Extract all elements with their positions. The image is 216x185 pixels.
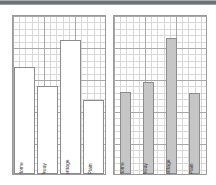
bar-plain[interactable]: Plain bbox=[189, 93, 201, 174]
bar-label-heritage: Heritage bbox=[65, 160, 70, 175]
bar-plain[interactable]: Plain bbox=[83, 100, 104, 174]
charts-area: HomeAwayHeritagePlain HomeAwayHeritagePl… bbox=[0, 4, 216, 185]
bar-label-heritage: Heritage bbox=[166, 160, 171, 175]
bar-away[interactable]: Away bbox=[143, 82, 155, 174]
bar-chart-right: HomeAwayHeritagePlain bbox=[113, 15, 207, 175]
top-band-highlight bbox=[0, 0, 216, 1]
bar-heritage[interactable]: Heritage bbox=[166, 38, 178, 174]
bar-label-plain: Plain bbox=[88, 163, 93, 174]
bars-container-left: HomeAwayHeritagePlain bbox=[13, 16, 105, 174]
plot-area-left: HomeAwayHeritagePlain bbox=[12, 15, 106, 175]
bars-container-right: HomeAwayHeritagePlain bbox=[114, 16, 206, 174]
bar-label-away: Away bbox=[143, 163, 148, 175]
bar-label-plain: Plain bbox=[189, 163, 194, 174]
bar-chart-left: HomeAwayHeritagePlain bbox=[12, 15, 106, 175]
bar-label-home: Home bbox=[19, 162, 24, 175]
bar-label-home: Home bbox=[120, 162, 125, 175]
plot-area-right: HomeAwayHeritagePlain bbox=[113, 15, 207, 175]
bar-home[interactable]: Home bbox=[14, 67, 35, 174]
bar-heritage[interactable]: Heritage bbox=[60, 40, 81, 174]
bar-away[interactable]: Away bbox=[37, 86, 58, 174]
bar-label-away: Away bbox=[42, 163, 47, 175]
bar-home[interactable]: Home bbox=[120, 92, 132, 174]
